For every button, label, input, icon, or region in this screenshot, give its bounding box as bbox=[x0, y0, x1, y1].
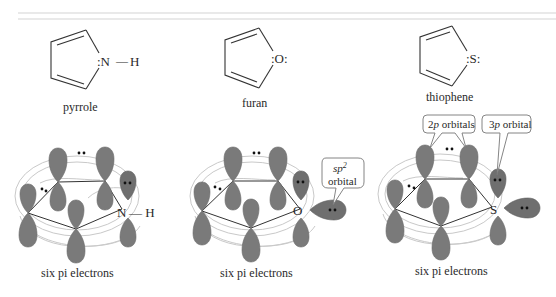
header-rule bbox=[18, 13, 556, 19]
pyrrole-orbital-diagram: N — H six pi electrons bbox=[15, 147, 155, 280]
2p-orbitals-callout: 2p orbitals bbox=[423, 115, 475, 148]
orbital-nh-label: — H bbox=[128, 205, 155, 220]
pyrrole-nh-bond: — bbox=[115, 54, 129, 68]
thiophene-orbital-diagram: S 2p orbitals 3p orbital six pi electron… bbox=[378, 115, 540, 278]
pyrrole-hydrogen-label: H bbox=[130, 54, 139, 69]
electron-pair-left bbox=[41, 188, 48, 193]
orbital-sulfur-label: S bbox=[490, 202, 497, 217]
pyrrole-structure: :N — H pyrrole bbox=[51, 30, 139, 114]
p-orbital-c5 bbox=[67, 200, 85, 263]
p-orbital-c5 bbox=[432, 197, 450, 260]
furan-caption: six pi electrons bbox=[220, 266, 293, 280]
3p-orbital-callout: 3p orbital bbox=[482, 115, 531, 175]
aromatic-heterocycles-figure: :N — H pyrrole :O: furan :S: thiophene bbox=[0, 0, 556, 297]
furan-name-label: furan bbox=[242, 96, 267, 110]
thiophene-sulfur-label: :S: bbox=[466, 51, 480, 66]
furan-orbital-diagram: O sp2 orbital six pi electrons bbox=[190, 147, 364, 280]
furan-oxygen-label: :O: bbox=[271, 51, 288, 66]
orbital-nitrogen-label: N bbox=[117, 205, 127, 220]
p-orbital-c3 bbox=[96, 147, 114, 210]
electron-pair-left bbox=[214, 186, 222, 191]
sp2-orbital-callout: sp2 orbital bbox=[322, 158, 364, 205]
p-orbital-c3 bbox=[460, 145, 478, 208]
electron-pair-top bbox=[446, 148, 454, 151]
thiophene-name-label: thiophene bbox=[426, 90, 473, 104]
p-orbital-c3 bbox=[269, 147, 287, 210]
sp2-orbital-oxygen bbox=[310, 200, 346, 220]
thiophene-caption: six pi electrons bbox=[415, 264, 488, 278]
electron-pair-left bbox=[408, 185, 416, 190]
callout-orbital-text: orbital bbox=[328, 175, 357, 187]
thiophene-structure: :S: thiophene bbox=[420, 26, 480, 104]
electron-pair-top bbox=[78, 152, 86, 155]
p-orbital-c5 bbox=[242, 199, 260, 262]
orbital-oxygen-label: O bbox=[293, 203, 302, 218]
callout-2p-text: 2p orbitals bbox=[428, 118, 475, 130]
pyrrole-name-label: pyrrole bbox=[63, 100, 98, 114]
electron-pair-top bbox=[253, 152, 261, 155]
pyrrole-nitrogen-label: :N bbox=[97, 54, 111, 69]
pyrrole-caption: six pi electrons bbox=[41, 266, 114, 280]
callout-3p-text: 3p orbital bbox=[489, 118, 531, 130]
furan-structure: :O: furan bbox=[225, 28, 288, 110]
